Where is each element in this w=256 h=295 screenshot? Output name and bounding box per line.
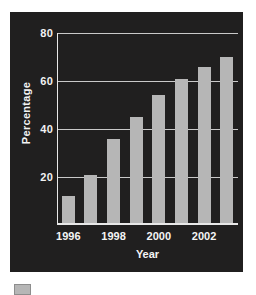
bar-2001 — [175, 79, 188, 225]
chart-figure: Percentage 20406080 1996199820002002 Yea… — [0, 0, 256, 295]
y-tick-20: 20 — [40, 171, 53, 183]
legend — [14, 284, 35, 295]
x-axis-line — [57, 223, 238, 225]
bar-1998 — [107, 139, 120, 225]
legend-swatch-percentage — [14, 284, 31, 295]
x-tick-2002: 2002 — [192, 230, 216, 242]
gridline-60 — [57, 81, 238, 82]
bar-2002 — [198, 67, 211, 225]
x-axis-title: Year — [57, 248, 238, 260]
bar-1999 — [130, 117, 143, 225]
plot-area — [57, 33, 238, 225]
x-tick-2000: 2000 — [147, 230, 171, 242]
gridline-80 — [57, 33, 238, 34]
bar-2000 — [152, 95, 165, 225]
y-axis-tick-labels: 20406080 — [20, 33, 53, 225]
y-tick-60: 60 — [40, 75, 53, 87]
bar-2003 — [220, 57, 233, 225]
gridline-40 — [57, 129, 238, 130]
y-axis-line — [57, 33, 58, 225]
y-tick-80: 80 — [40, 27, 53, 39]
chart-panel: Percentage 20406080 1996199820002002 Yea… — [10, 12, 243, 272]
x-tick-1996: 1996 — [56, 230, 80, 242]
x-tick-1998: 1998 — [101, 230, 125, 242]
y-tick-40: 40 — [40, 123, 53, 135]
bar-1996 — [62, 196, 75, 225]
bar-1997 — [84, 175, 97, 225]
